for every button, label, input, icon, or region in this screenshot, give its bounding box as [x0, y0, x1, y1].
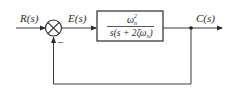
- input-label: R(s): [19, 12, 39, 25]
- output-label: C(s): [196, 12, 215, 25]
- feedback-arrow-icon: [51, 37, 56, 44]
- error-label: E(s): [67, 12, 87, 25]
- summing-junction: [46, 20, 62, 36]
- numerator: ωn2: [127, 13, 137, 26]
- denominator: s(s + 2ζωn): [110, 28, 153, 39]
- feedback-sign: −: [57, 36, 64, 48]
- block-diagram: R(s) E(s) ωn2 s(s + 2ζωn) C(s) −: [0, 0, 229, 90]
